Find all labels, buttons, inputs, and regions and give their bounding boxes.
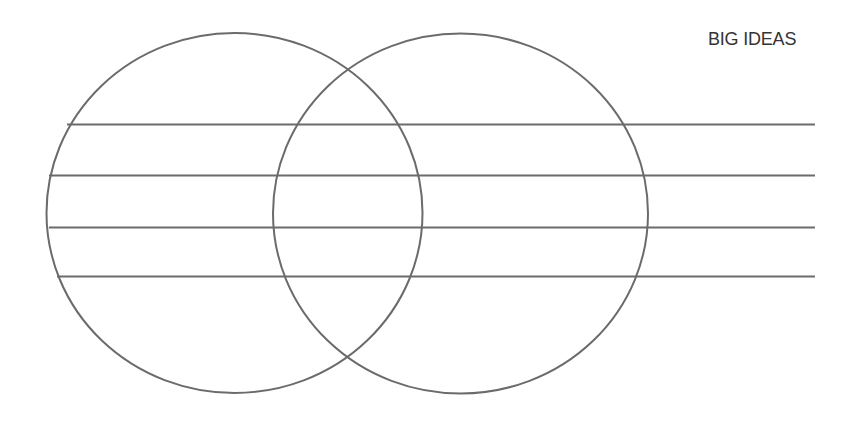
venn-diagram bbox=[0, 0, 860, 421]
right-circle bbox=[273, 34, 648, 394]
writing-lines bbox=[49, 125, 815, 277]
big-ideas-title: BIG IDEAS bbox=[708, 29, 796, 49]
venn-circles bbox=[47, 33, 649, 394]
left-circle bbox=[47, 33, 423, 393]
